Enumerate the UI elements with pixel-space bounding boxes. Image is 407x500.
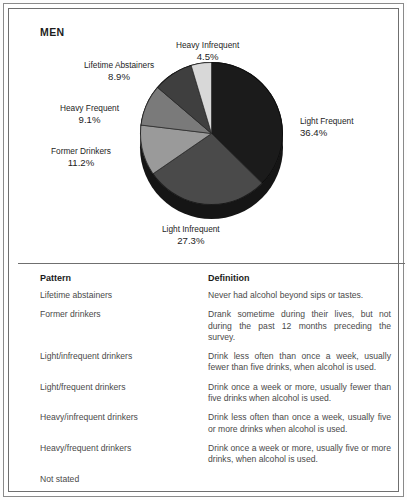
pie-label-heavy-infrequent: Heavy Infrequent 4.5% [176,40,239,63]
pie-label-light-frequent-name: Light Frequent [300,116,354,126]
pie-chart [140,62,285,217]
pie-label-former-drinkers: Former Drinkers 11.2% [51,146,111,169]
pie-label-light-infrequent: Light Infrequent 27.3% [162,224,220,247]
table-cell-definition: Drink less often than once a week, usual… [208,412,391,443]
table-cell-definition: Never had alcohol beyond sips or tastes. [208,290,391,309]
pie-label-former-drinkers-value: 11.2% [51,157,111,168]
pie-label-lifetime-abstainers-value: 8.9% [84,71,154,82]
pie-label-former-drinkers-name: Former Drinkers [51,146,111,156]
pie-label-lifetime-abstainers-name: Lifetime Abstainers [84,60,154,70]
column-header-definition: Definition [208,273,391,290]
panel-title: MEN [40,26,65,38]
table-cell-definition: Drank sometime during their lives, but n… [208,309,391,351]
pie-label-heavy-infrequent-name: Heavy Infrequent [176,40,239,50]
column-header-pattern: Pattern [40,273,208,290]
table-cell-pattern: Not stated [40,474,208,493]
table-cell-pattern: Light/infrequent drinkers [40,351,208,382]
pie-label-lifetime-abstainers: Lifetime Abstainers 8.9% [84,60,154,83]
table-cell-definition: Drink once a week or more, usually fewer… [208,382,391,413]
table-row: Lifetime abstainersNever had alcohol bey… [40,290,391,309]
definitions-table: Pattern Definition Lifetime abstainersNe… [40,273,391,493]
pie-label-light-frequent: Light Frequent 36.4% [300,116,354,139]
table-cell-definition [208,474,391,493]
pie-label-light-infrequent-value: 27.3% [162,235,220,246]
table-cell-pattern: Heavy/frequent drinkers [40,443,208,474]
table-body: Lifetime abstainersNever had alcohol bey… [40,290,391,493]
definitions-panel: Pattern Definition Lifetime abstainersNe… [18,263,405,492]
table-row: Heavy/infrequent drinkersDrink less ofte… [40,412,391,443]
table-row: Not stated [40,474,391,493]
figure-page: MEN Heavy Infrequent 4.5% Lifetime Absta… [0,0,407,500]
table-cell-pattern: Former drinkers [40,309,208,351]
pie-chart-panel: MEN Heavy Infrequent 4.5% Lifetime Absta… [18,18,405,261]
pie-slices [140,62,283,205]
pie-label-heavy-frequent-name: Heavy Frequent [60,103,119,113]
inner-border: MEN Heavy Infrequent 4.5% Lifetime Absta… [8,8,399,492]
pie-label-light-frequent-value: 36.4% [300,127,354,138]
pie-label-heavy-frequent: Heavy Frequent 9.1% [60,103,119,126]
table-cell-definition: Drink once a week or more, usually five … [208,443,391,474]
table-row: Former drinkersDrank sometime during the… [40,309,391,351]
pie-label-light-infrequent-name: Light Infrequent [162,224,220,234]
table-cell-pattern: Light/frequent drinkers [40,382,208,413]
pie-label-heavy-frequent-value: 9.1% [60,114,119,125]
table-row: Light/frequent drinkersDrink once a week… [40,382,391,413]
table-row: Light/infrequent drinkersDrink less ofte… [40,351,391,382]
pie-slice-group [140,62,283,205]
pie-label-heavy-infrequent-value: 4.5% [176,51,239,62]
table-cell-pattern: Lifetime abstainers [40,290,208,309]
table-row: Heavy/frequent drinkersDrink once a week… [40,443,391,474]
table-header-row: Pattern Definition [40,273,391,290]
table-cell-definition: Drink less often than once a week, usual… [208,351,391,382]
table-cell-pattern: Heavy/infrequent drinkers [40,412,208,443]
